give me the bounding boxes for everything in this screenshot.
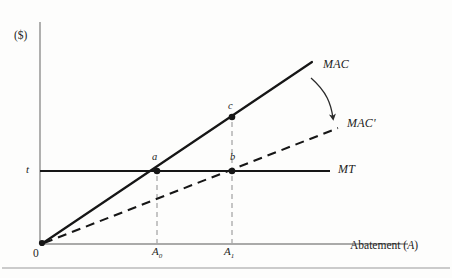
mt-curve-label: MT [338,163,355,175]
point-a-label: a [152,152,157,163]
mac-prime-curve-label: MAC' [347,117,376,129]
point-c-marker [229,114,236,121]
origin-label: 0 [33,248,39,260]
x-axis-label: Abatement (A) [350,240,418,252]
x-tick-a0-subscript: 0 [159,252,163,260]
y-axis-label: ($) [14,30,27,42]
x-tick-a1-subscript: 1 [231,252,235,260]
x-tick-a1-variable: A [224,245,231,257]
mac-line [43,62,312,243]
x-tick-label-a1: A1 [224,246,234,260]
point-b-label: b [230,152,235,163]
point-c-label: c [228,101,233,112]
x-axis-label-close: ) [414,239,418,251]
plot-canvas [0,0,452,278]
x-tick-label-a0: A0 [152,246,162,260]
mac-curve-label: MAC [323,58,349,70]
shift-arrow-mac-to-macprime [311,78,333,118]
mac-prime-line [44,128,338,243]
x-axis-label-text: Abatement ( [350,239,407,251]
point-b-marker [229,168,236,175]
point-a-marker [154,168,161,175]
x-tick-a0-variable: A [152,245,159,257]
abatement-tax-figure: ($) Abatement (A) MAC MAC' MT a b c t 0 … [0,0,452,278]
y-tick-label-t: t [26,164,29,175]
origin-dot [39,240,45,246]
